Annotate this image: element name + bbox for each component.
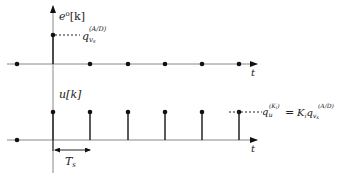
- period-label: Ts: [65, 155, 76, 169]
- sample-dot: [237, 62, 242, 67]
- sample-dot: [88, 62, 93, 67]
- bottom-x-label: t: [251, 143, 256, 154]
- sample-dot: [15, 138, 20, 143]
- sample-dot: [163, 62, 168, 67]
- sample-dot: [126, 110, 131, 115]
- top-x-label: t: [251, 67, 256, 78]
- bottom-plot: u[k] qu(Ki)=Kiqvs(A/D) t Ts: [7, 88, 335, 169]
- sample-dot: [126, 62, 131, 67]
- sampling-diagram: eo[k] qvs(A/D) t u[k] qu(Ki)=Kiqvs(A/D) …: [0, 0, 345, 173]
- top-level-label: qvs(A/D): [82, 25, 107, 44]
- sample-dot: [200, 62, 205, 67]
- top-y-label: eo[k]: [59, 10, 85, 23]
- sample-dot: [163, 110, 168, 115]
- sample-dot: [51, 110, 56, 115]
- sample-dot: [51, 33, 56, 38]
- top-plot: eo[k] qvs(A/D) t: [7, 10, 257, 78]
- sample-dot: [88, 110, 93, 115]
- sample-dot: [15, 62, 20, 67]
- bottom-y-label: u[k]: [59, 88, 82, 101]
- sample-dot: [200, 110, 205, 115]
- bottom-level-label: qu(Ki)=Kiqvs(A/D): [262, 102, 335, 120]
